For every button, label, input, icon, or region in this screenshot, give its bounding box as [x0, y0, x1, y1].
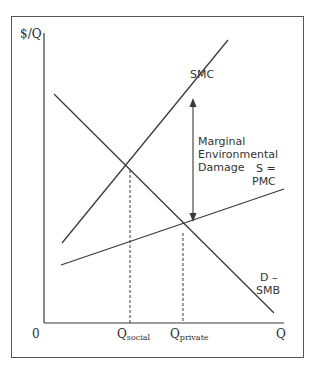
demand-label-line2: SMB — [256, 284, 280, 297]
x-axis-label: Q — [276, 328, 286, 341]
q-private-label: Qprivate — [170, 328, 209, 344]
q-social-main: Q — [117, 327, 127, 341]
q-social-sub: social — [127, 333, 150, 342]
q-private-main: Q — [170, 327, 180, 341]
q-private-sub: private — [180, 333, 209, 342]
annotation-line1: Marginal — [198, 135, 245, 148]
pmc-label-line2: PMC — [252, 175, 276, 188]
demand-label-line1: D – — [260, 271, 277, 284]
pmc-curve — [61, 189, 284, 265]
smc-label: SMC — [190, 68, 214, 81]
marginal-damage-arrow-icon — [190, 98, 197, 222]
annotation-line2: Environmental — [198, 148, 278, 161]
origin-label: 0 — [32, 328, 40, 341]
annotation-line3: Damage — [198, 161, 244, 174]
pmc-label-line1: S = — [256, 162, 276, 175]
q-social-label: Qsocial — [117, 328, 150, 344]
y-axis-label: $/Q — [20, 28, 42, 41]
